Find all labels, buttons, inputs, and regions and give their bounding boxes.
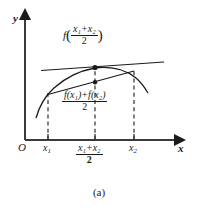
tangent-value-annotation: f ( x₁+x₂ 2 ) <box>63 24 103 46</box>
chord-fraction-denominator: 2 <box>62 102 107 113</box>
x-axis-label: x <box>178 143 184 154</box>
xtick-label-midpoint: x₁+x₂ 2 <box>76 143 103 165</box>
chord-midpoint-marker <box>93 80 97 84</box>
chord-fraction: f(x₁)+f(x₂) 2 <box>62 90 107 112</box>
tangent-line <box>41 62 164 71</box>
origin-label: O <box>18 142 26 153</box>
tangent-close-paren: ) <box>98 28 103 43</box>
y-axis-label: y <box>13 13 18 24</box>
xtick-x1-sub: 1 <box>47 147 51 155</box>
xtick-label-x2: x2 <box>129 143 137 155</box>
chord-fraction-numerator: f(x₁)+f(x₂) <box>62 90 107 102</box>
tangent-fraction-denominator: 2 <box>71 36 98 47</box>
xtick-midpoint-fraction: x₁+x₂ 2 <box>76 143 103 165</box>
chord-value-annotation: f(x₁)+f(x₂) 2 <box>62 90 107 112</box>
xtick-x2-sub: 2 <box>133 147 137 155</box>
tangent-fraction: x₁+x₂ 2 <box>71 24 98 46</box>
tangent-fraction-numerator: x₁+x₂ <box>71 24 98 36</box>
tangent-point-marker <box>92 65 97 70</box>
xtick-midpoint-denominator: 2 <box>76 155 103 166</box>
xtick-label-x1: x1 <box>43 143 51 155</box>
figure-container: y x O f ( x₁+x₂ 2 ) f(x₁)+f(x₂) 2 x1 x₁+… <box>0 0 198 208</box>
xtick-midpoint-numerator: x₁+x₂ <box>76 143 103 155</box>
figure-caption: (a) <box>0 186 198 198</box>
